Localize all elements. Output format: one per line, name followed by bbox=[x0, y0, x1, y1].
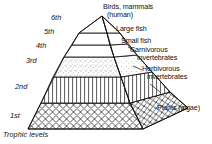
trophic-level-label-2nd: 2nd bbox=[15, 83, 27, 91]
diagram-caption-trophic-levels: Trophic levels bbox=[3, 130, 48, 139]
organism-label-small-fish: Small fish bbox=[121, 37, 151, 45]
trophic-level-label-6th: 6th bbox=[51, 14, 61, 22]
level-2-front-face bbox=[41, 77, 130, 103]
trophic-level-label-5th: 5th bbox=[44, 28, 54, 36]
level-4-front-face bbox=[64, 45, 114, 57]
level-1-front-face bbox=[28, 103, 143, 129]
level-3-front-face bbox=[53, 57, 121, 77]
trophic-level-label-1st: 1st bbox=[10, 112, 20, 120]
organism-label-plants-algae: Plants (algae) bbox=[157, 104, 200, 112]
organism-label-carnivorous-line2: invertebrates bbox=[137, 54, 177, 62]
organism-label-herbivorous-line2: invertebrates bbox=[147, 73, 187, 81]
organism-label-large-fish: Large fish bbox=[116, 25, 147, 33]
organism-label-birds-mammals-line2: (human) bbox=[107, 11, 133, 19]
trophic-level-label-3rd: 3rd bbox=[26, 57, 37, 65]
trophic-level-label-4th: 4th bbox=[36, 42, 46, 50]
pyramid-diagram-canvas: 6th 5th 4th 3rd 2nd 1st Birds, mammals (… bbox=[0, 0, 212, 144]
